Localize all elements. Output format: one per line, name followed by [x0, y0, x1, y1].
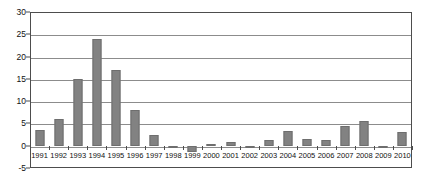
- x-axis-tick-label: 1994: [89, 151, 106, 160]
- bar-slot: [259, 12, 278, 168]
- x-axis-tick-label: 1998: [165, 151, 182, 160]
- x-axis-tick: [374, 146, 375, 150]
- bar: [150, 135, 159, 146]
- x-axis-tick: [202, 146, 203, 150]
- x-axis-tick-label: 1996: [127, 151, 144, 160]
- y-axis-labels: -5051015202530: [0, 12, 26, 168]
- y-axis-tick-label: 25: [17, 29, 26, 39]
- bar-slot: [278, 12, 297, 168]
- bar: [283, 131, 292, 146]
- bars-layer: [30, 12, 412, 168]
- bar-slot: [355, 12, 374, 168]
- bar-slot: [68, 12, 87, 168]
- bar-slot: [221, 12, 240, 168]
- x-axis-labels: 1991199219931994199519961997199819992000…: [30, 151, 412, 163]
- x-axis-tick: [49, 146, 50, 150]
- bar-slot: [87, 12, 106, 168]
- x-axis-tick-label: 1993: [69, 151, 86, 160]
- x-axis-tick-label: 2006: [318, 151, 335, 160]
- x-axis-tick-label: 2003: [260, 151, 277, 160]
- x-axis-tick-label: 2002: [241, 151, 258, 160]
- bar-slot: [164, 12, 183, 168]
- bar-slot: [393, 12, 412, 168]
- x-axis-tick: [336, 146, 337, 150]
- x-axis-tick-label: 2005: [299, 151, 316, 160]
- bar: [54, 119, 63, 146]
- y-axis-tick-label: 30: [17, 7, 26, 17]
- bar-slot: [297, 12, 316, 168]
- x-axis-ticks: [30, 146, 412, 150]
- x-axis-tick: [317, 146, 318, 150]
- x-axis-tick: [355, 146, 356, 150]
- bar: [398, 132, 407, 145]
- x-axis-tick-label: 2008: [356, 151, 373, 160]
- x-axis-tick: [164, 146, 165, 150]
- y-axis-tick: [26, 145, 30, 146]
- x-axis-tick-label: 1995: [108, 151, 125, 160]
- x-axis-tick: [278, 146, 279, 150]
- bar-slot: [374, 12, 393, 168]
- x-axis-tick-label: 1997: [146, 151, 163, 160]
- y-axis-tick: [26, 168, 30, 169]
- x-axis-tick-label: 1991: [31, 151, 48, 160]
- y-axis-tick-label: 20: [17, 52, 26, 62]
- bar-slot: [317, 12, 336, 168]
- x-axis-tick: [126, 146, 127, 150]
- x-axis-tick: [68, 146, 69, 150]
- y-axis-tick: [26, 34, 30, 35]
- x-axis-tick-label: 2001: [222, 151, 239, 160]
- x-axis-tick: [221, 146, 222, 150]
- bar: [360, 121, 369, 146]
- bar: [131, 110, 140, 146]
- x-axis-tick: [240, 146, 241, 150]
- x-axis-tick: [412, 146, 413, 150]
- x-axis-tick-label: 2010: [394, 151, 411, 160]
- x-axis-tick: [30, 146, 31, 150]
- x-axis-tick: [106, 146, 107, 150]
- bar: [302, 139, 311, 146]
- bar-slot: [30, 12, 49, 168]
- bar: [92, 39, 101, 146]
- x-axis-tick: [87, 146, 88, 150]
- y-axis-tick-label: 10: [17, 96, 26, 106]
- y-axis-tick: [26, 78, 30, 79]
- x-axis-tick: [145, 146, 146, 150]
- bar-slot: [183, 12, 202, 168]
- bar: [35, 130, 44, 146]
- bar-slot: [336, 12, 355, 168]
- x-axis-tick: [393, 146, 394, 150]
- bar: [73, 79, 82, 146]
- y-axis-tick: [26, 123, 30, 124]
- bar-slot: [126, 12, 145, 168]
- bar-slot: [49, 12, 68, 168]
- y-axis-tick: [26, 101, 30, 102]
- bar: [341, 126, 350, 146]
- x-axis-tick-label: 2007: [337, 151, 354, 160]
- bar-slot: [240, 12, 259, 168]
- y-axis-tick-label: 15: [17, 74, 26, 84]
- bar-chart: -5051015202530 1991199219931994199519961…: [0, 0, 435, 193]
- x-axis-tick: [259, 146, 260, 150]
- x-axis-tick-label: 2000: [203, 151, 220, 160]
- x-axis-tick: [183, 146, 184, 150]
- x-axis-tick-label: 2004: [280, 151, 297, 160]
- y-axis-tick: [26, 12, 30, 13]
- bar-slot: [202, 12, 221, 168]
- x-axis-tick-label: 1999: [184, 151, 201, 160]
- y-axis-tick: [26, 56, 30, 57]
- bar-slot: [106, 12, 125, 168]
- x-axis-tick: [297, 146, 298, 150]
- y-axis-tick-label: -5: [18, 163, 26, 173]
- x-axis-tick-label: 2009: [375, 151, 392, 160]
- bar-slot: [145, 12, 164, 168]
- x-axis-tick-label: 1992: [50, 151, 67, 160]
- bar: [111, 70, 120, 146]
